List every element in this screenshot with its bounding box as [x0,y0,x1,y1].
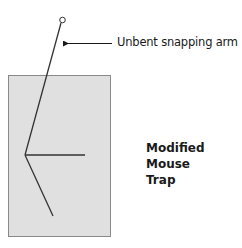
diagram-title: Modified Mouse Trap [146,140,205,188]
arm-label: Unbent snapping arm [117,35,238,49]
trap-base [9,76,111,237]
title-line-1: Modified [146,140,205,156]
arm-tip-loop [60,17,66,23]
title-line-2: Mouse [146,156,205,172]
title-line-3: Trap [146,172,205,188]
